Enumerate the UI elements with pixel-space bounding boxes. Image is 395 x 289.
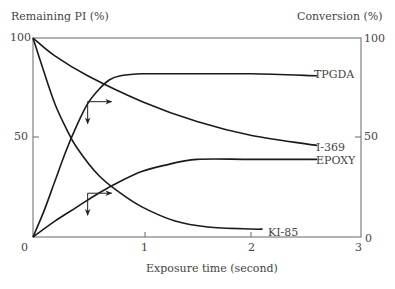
curve-tpgda <box>33 74 317 237</box>
y-axis-left-title: Remaining PI (%) <box>11 10 109 23</box>
x-tick-3: 3 <box>355 241 362 254</box>
series-label-i369: I-369 <box>316 141 345 154</box>
y-tick-left-100: 100 <box>10 31 31 44</box>
x-tick-2: 2 <box>248 241 255 254</box>
plot-frame <box>33 38 361 237</box>
x-axis-title: Exposure time (second) <box>146 262 278 275</box>
x-tick-1: 1 <box>141 241 148 254</box>
tick-marks <box>33 137 361 237</box>
y-tick-left-50: 50 <box>14 130 28 143</box>
series-label-epoxy: EPOXY <box>316 154 355 167</box>
y-tick-right-100: 100 <box>364 32 385 45</box>
y-tick-right-50: 50 <box>364 130 378 143</box>
series-label-ki85: KI-85 <box>268 226 298 239</box>
x-tick-0: 0 <box>21 241 28 254</box>
y-tick-right-0: 0 <box>365 232 372 245</box>
curve-ki85 <box>33 38 263 229</box>
y-axis-right-title: Conversion (%) <box>297 10 383 23</box>
series-label-tpgda: TPGDA <box>314 68 354 81</box>
